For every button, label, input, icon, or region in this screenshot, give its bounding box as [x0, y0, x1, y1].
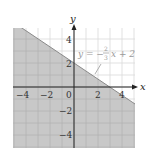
- x-tick-label: 2: [95, 90, 101, 100]
- x-tick-label: −2: [40, 90, 53, 100]
- y-tick-label: −4: [59, 130, 73, 140]
- fraction-numerator: 2: [104, 45, 108, 52]
- x-tick-label: 4: [119, 90, 125, 100]
- y-tick-label: −2: [59, 106, 72, 116]
- equation-suffix: x + 2: [111, 49, 135, 59]
- y-tick-label: 4: [66, 35, 72, 45]
- equation-prefix: y = −: [77, 49, 104, 59]
- y-tick-label: 2: [66, 59, 72, 69]
- y-axis-arrow-icon: [72, 24, 77, 30]
- fraction-denominator: 3: [104, 54, 108, 61]
- inequality-graph: x y −4 −2 0 2 4 4 2 −2 −4 y = − 2 3 x + …: [0, 0, 148, 157]
- x-tick-label: −4: [16, 90, 30, 100]
- x-tick-label: 0: [66, 90, 72, 100]
- y-axis-label: y: [69, 13, 76, 24]
- x-axis-label: x: [140, 81, 146, 92]
